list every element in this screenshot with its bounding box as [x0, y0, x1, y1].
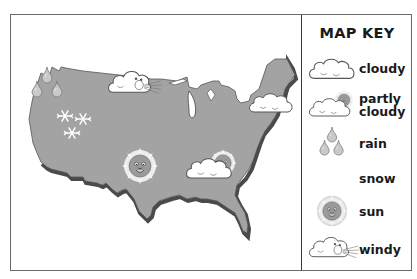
map-snow-icon [55, 107, 95, 145]
key-item-rain: rain [302, 129, 412, 157]
raindrop-icon [318, 127, 346, 157]
key-label-rain: rain [359, 137, 387, 150]
map-cloudy-icon [248, 91, 294, 115]
key-label-snow: snow [359, 172, 395, 185]
map-key-title: MAP KEY [302, 25, 412, 41]
windy-cloud-icon [308, 235, 362, 263]
key-label-cloudy: cloudy [359, 62, 405, 75]
map-frame: MAP KEY cloudy partly cloudy [10, 14, 412, 271]
map-sun-icon [121, 147, 159, 185]
map-partly-cloudy-icon [185, 147, 241, 187]
key-item-windy: windy [302, 235, 412, 265]
map-rain-icon [31, 67, 67, 101]
map-key: MAP KEY cloudy partly cloudy [302, 15, 412, 270]
sun-icon [316, 195, 348, 227]
key-label-sun: sun [359, 205, 384, 218]
key-label-windy: windy [359, 243, 401, 256]
cloud-icon [308, 57, 356, 81]
map-windy-icon [107, 69, 165, 99]
key-item-cloudy: cloudy [302, 55, 412, 81]
key-item-snow: snow [302, 163, 412, 193]
us-weather-map [11, 15, 301, 270]
key-item-sun: sun [302, 195, 412, 229]
key-item-partly-cloudy: partly cloudy [302, 89, 412, 121]
key-label-cloudy-2: cloudy [359, 105, 405, 118]
partly-cloudy-icon [308, 89, 358, 121]
snowflake-icon [316, 163, 346, 193]
